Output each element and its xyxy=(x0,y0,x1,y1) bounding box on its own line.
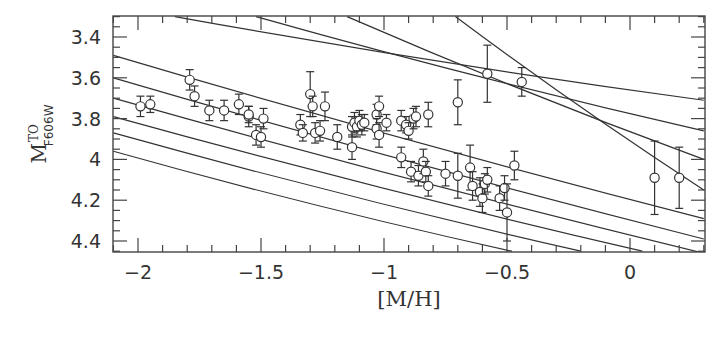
data-points xyxy=(136,45,684,241)
data-point xyxy=(320,92,329,121)
data-point xyxy=(453,153,462,198)
data-point xyxy=(424,102,433,126)
y-tick-label: 4 xyxy=(89,148,101,170)
y-tick-label: 3.6 xyxy=(71,67,101,89)
data-point xyxy=(517,68,526,97)
data-point xyxy=(259,108,268,128)
y-axis-label: MTOF606W xyxy=(27,104,56,163)
data-point xyxy=(453,80,462,125)
data-point xyxy=(333,125,342,149)
isochrone-line xyxy=(256,17,704,131)
isochrone-line xyxy=(113,151,512,251)
y-tick-label: 4.4 xyxy=(71,230,101,252)
data-point xyxy=(397,147,406,167)
data-point xyxy=(347,135,356,159)
data-point xyxy=(650,141,659,214)
isochrone-line xyxy=(175,17,704,101)
x-tick-label: −2 xyxy=(124,261,152,283)
x-tick-label: −1.5 xyxy=(238,261,284,283)
y-tick-label: 3.8 xyxy=(71,108,101,130)
y-axis-label-sup: TO xyxy=(27,124,41,142)
data-point xyxy=(220,100,229,120)
data-point xyxy=(190,86,199,106)
data-point xyxy=(424,176,433,196)
data-point xyxy=(382,115,391,131)
isochrone-line xyxy=(113,133,580,251)
isochrone-line xyxy=(113,78,703,239)
data-point xyxy=(234,94,243,114)
svg-text:MTOF606W: MTOF606W xyxy=(27,104,56,163)
data-point xyxy=(256,127,265,147)
chart: −2−1.5−1−0.50 3.43.63.844.24.4 [M/H] MTO… xyxy=(0,0,725,338)
x-tick-label: −0.5 xyxy=(484,261,530,283)
y-tick-label: 3.4 xyxy=(71,26,101,48)
y-axis-label-sub: F606W xyxy=(42,104,56,146)
data-point xyxy=(441,161,450,185)
data-point xyxy=(185,70,194,90)
data-point xyxy=(510,151,519,180)
y-tick-label: 4.2 xyxy=(71,189,101,211)
data-point xyxy=(675,147,684,208)
x-axis-label: [M/H] xyxy=(377,287,440,311)
x-tick-label: 0 xyxy=(624,261,636,283)
data-point xyxy=(205,100,214,120)
x-tick-label: −1 xyxy=(370,261,398,283)
data-point xyxy=(136,96,145,116)
isochrone-line xyxy=(455,17,703,190)
data-point xyxy=(483,45,492,102)
